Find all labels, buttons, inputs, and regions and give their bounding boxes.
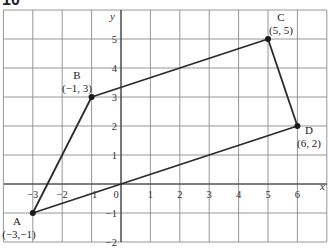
y-tick-label: −1 xyxy=(106,208,117,219)
y-tick-label: 4 xyxy=(112,63,118,74)
edge-da xyxy=(33,126,298,213)
vertex-label-d-coords: (6, 2) xyxy=(297,137,321,150)
tick-labels: −3−2−1012345654321−1−2 xyxy=(27,34,300,248)
y-axis-label: y xyxy=(109,10,115,22)
vertex-d xyxy=(294,123,300,129)
y-tick-label: 5 xyxy=(112,34,117,45)
vertex-label-d-name: D xyxy=(305,124,313,136)
x-tick-label: 6 xyxy=(295,189,300,200)
x-tick-label: 4 xyxy=(236,189,242,200)
vertex-label-b-name: B xyxy=(73,69,80,81)
x-tick-label: 0 xyxy=(113,189,118,200)
vertex-c xyxy=(265,36,271,42)
coordinate-plane: −3−2−1012345654321−1−2 x y A (−3,−1) B (… xyxy=(0,0,328,249)
edge-cd xyxy=(268,39,297,126)
y-tick-label: 3 xyxy=(112,92,117,103)
x-tick-label: −1 xyxy=(86,189,97,200)
vertex-a xyxy=(30,210,36,216)
x-axis-label: x xyxy=(319,180,325,192)
x-tick-label: 5 xyxy=(265,189,270,200)
y-tick-label: 2 xyxy=(112,121,117,132)
vertex-label-c-name: C xyxy=(277,11,284,23)
vertex-label-b-coords: (−1, 3) xyxy=(62,82,92,95)
vertex-label-a-coords: (−3,−1) xyxy=(2,228,36,241)
vertex-label-c-coords: (5, 5) xyxy=(269,24,293,37)
x-tick-label: 2 xyxy=(177,189,182,200)
x-tick-label: 3 xyxy=(207,189,212,200)
x-tick-label: −3 xyxy=(27,189,38,200)
x-tick-label: 1 xyxy=(148,189,153,200)
y-tick-label: 1 xyxy=(112,150,117,161)
y-tick-label: −2 xyxy=(106,237,117,248)
vertex-label-a-name: A xyxy=(13,215,21,227)
x-tick-label: −2 xyxy=(57,189,68,200)
vertex-b xyxy=(89,94,95,100)
